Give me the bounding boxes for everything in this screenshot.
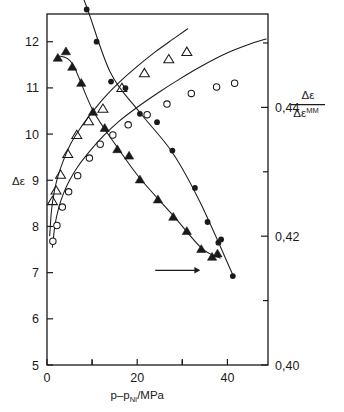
marker-filled-circle xyxy=(84,7,90,13)
ratio-filled-triangles xyxy=(53,47,222,260)
marker-filled-triangle xyxy=(53,53,62,61)
marker-open-circle xyxy=(50,238,56,244)
scatter-chart: 02040 56789101112 0,400,420,440,46 Δεp–p… xyxy=(0,0,344,412)
marker-filled-circle xyxy=(230,273,236,279)
y-tick-label-left: 12 xyxy=(25,35,39,49)
y-axis-right-ticks: 0,400,420,440,46 xyxy=(261,0,299,373)
marker-filled-triangle xyxy=(68,62,77,70)
marker-filled-triangle xyxy=(153,195,162,203)
marker-open-circle xyxy=(110,132,116,138)
guide-line-filled-circles xyxy=(52,0,232,275)
theory-curve-lower xyxy=(52,39,266,247)
chart-figure: 02040 56789101112 0,400,420,440,46 Δεp–p… xyxy=(0,0,344,412)
x-tick-label: 20 xyxy=(130,371,144,385)
fraction-denominator: ΔεMM xyxy=(293,106,318,119)
data-markers xyxy=(47,0,237,279)
marker-filled-circle xyxy=(218,237,224,243)
y-axis-left-ticks: 56789101112 xyxy=(25,35,53,372)
marker-filled-triangle xyxy=(135,175,144,183)
fraction-numerator: Δε xyxy=(302,89,315,101)
arrow-head xyxy=(194,267,200,273)
marker-open-circle xyxy=(54,222,60,228)
marker-open-circle xyxy=(188,90,194,96)
marker-open-circle xyxy=(86,155,92,161)
marker-filled-circle xyxy=(108,79,114,85)
marker-filled-triangle xyxy=(213,249,222,257)
axes-box xyxy=(47,14,268,365)
marker-filled-circle xyxy=(137,111,143,117)
marker-open-circle xyxy=(164,101,170,107)
right-axis-arrow xyxy=(155,267,200,273)
y-axis-right-title: ΔεΔεMM xyxy=(291,89,325,119)
y-tick-label-right: 0,40 xyxy=(275,359,299,373)
marker-filled-triangle xyxy=(197,245,206,253)
marker-open-circle xyxy=(231,80,237,86)
marker-filled-circle xyxy=(123,85,129,91)
marker-filled-triangle xyxy=(88,108,97,116)
marker-open-circle xyxy=(59,204,65,210)
delta-epsilon-open-circles xyxy=(50,80,238,244)
marker-open-circle xyxy=(213,84,219,90)
x-tick-label: 0 xyxy=(44,371,51,385)
y-tick-label-right: 0,42 xyxy=(275,230,299,244)
marker-open-circle xyxy=(97,141,103,147)
marker-filled-triangle xyxy=(124,151,133,159)
marker-open-triangle xyxy=(182,47,192,55)
marker-filled-triangle xyxy=(169,213,178,221)
theory-curve-upper xyxy=(50,29,188,236)
marker-filled-triangle xyxy=(61,47,70,55)
y-axis-left-title: Δε xyxy=(12,175,25,187)
marker-filled-circle xyxy=(154,119,160,125)
marker-open-triangle xyxy=(139,68,149,76)
marker-open-triangle xyxy=(56,170,66,178)
marker-open-circle xyxy=(144,111,150,117)
marker-open-circle xyxy=(74,172,80,178)
axis-labels: Δεp–pNI/MPaΔεΔεMM xyxy=(12,89,325,404)
marker-filled-circle xyxy=(205,219,211,225)
x-tick-label: 40 xyxy=(220,371,234,385)
ratio-filled-circles xyxy=(50,0,236,279)
marker-open-triangle xyxy=(164,55,174,63)
marker-open-circle xyxy=(125,122,131,128)
x-axis-ticks: 02040 xyxy=(44,359,235,385)
y-tick-label-left: 11 xyxy=(26,81,39,95)
plot-frame xyxy=(47,14,268,365)
marker-filled-triangle xyxy=(77,79,86,87)
marker-open-triangle xyxy=(51,186,61,194)
marker-open-circle xyxy=(65,189,71,195)
marker-filled-circle xyxy=(192,185,198,191)
y-tick-label-left: 6 xyxy=(32,312,39,326)
x-axis-title: p–pNI/MPa xyxy=(110,389,164,404)
y-tick-label-left: 5 xyxy=(32,359,39,373)
chart-annotations xyxy=(155,267,200,273)
marker-filled-circle xyxy=(169,148,175,154)
y-tick-label-left: 10 xyxy=(25,128,39,142)
marker-open-triangle xyxy=(98,104,108,112)
marker-filled-circle xyxy=(94,39,100,45)
y-tick-label-left: 7 xyxy=(32,266,39,280)
data-curves xyxy=(50,0,266,275)
marker-filled-triangle xyxy=(113,145,122,153)
y-tick-label-left: 9 xyxy=(32,174,39,188)
y-tick-label-left: 8 xyxy=(32,220,39,234)
